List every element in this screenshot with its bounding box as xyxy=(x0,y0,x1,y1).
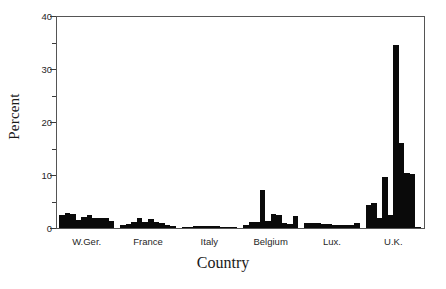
y-axis-title-text: Percent xyxy=(6,93,23,139)
bar xyxy=(410,174,416,228)
x-group-label-france: France xyxy=(133,236,163,247)
x-group-label-lux: Lux. xyxy=(323,236,341,247)
bars-layer xyxy=(56,16,424,228)
y-tick-label: 30 xyxy=(26,64,52,75)
x-group-label-u-k: U.K. xyxy=(384,236,402,247)
x-group-label-w-ger: W.Ger. xyxy=(72,236,101,247)
y-tick-label: 20 xyxy=(26,117,52,128)
y-axis-tick-labels: 010203040 xyxy=(26,0,52,240)
y-tick-label: 40 xyxy=(26,11,52,22)
x-group-label-italy: Italy xyxy=(201,236,218,247)
x-axis-title: Country xyxy=(0,254,446,272)
y-tick-label: 0 xyxy=(26,223,52,234)
y-tick-label: 10 xyxy=(26,170,52,181)
bar xyxy=(293,216,299,228)
x-axis-baseline xyxy=(56,228,425,229)
bar-chart: Percent 010203040 Country W.Ger.FranceIt… xyxy=(0,0,446,289)
y-axis-title: Percent xyxy=(2,0,26,232)
x-group-label-belgium: Belgium xyxy=(253,236,287,247)
bar xyxy=(109,221,115,228)
